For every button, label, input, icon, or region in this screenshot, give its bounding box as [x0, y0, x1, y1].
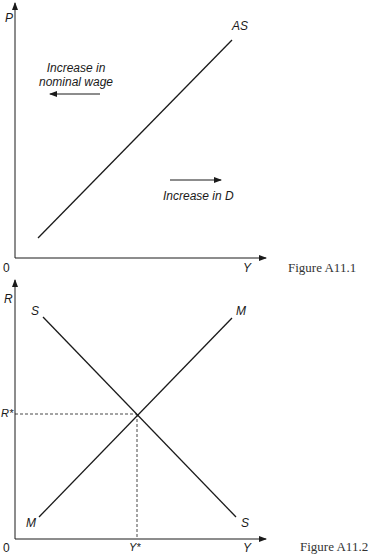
p-axis-label: P — [5, 11, 13, 25]
as-curve-label: AS — [232, 19, 248, 33]
m-curve — [39, 318, 232, 517]
figure2-y-axis-label: Y — [243, 541, 251, 555]
figure1-caption: Figure A11.1 — [288, 260, 356, 276]
increase-in-d-annotation: Increase in D — [163, 189, 234, 203]
annotation-line-1: Increase in — [36, 61, 116, 75]
figure2-axes — [15, 280, 266, 539]
r-axis-label: R — [4, 292, 13, 306]
annotation-line-2: nominal wage — [36, 75, 116, 89]
figure1-origin-label: 0 — [3, 261, 10, 275]
figure2-origin-label: 0 — [3, 541, 10, 555]
s-curve — [43, 317, 236, 517]
s-curve-bottom-label: S — [241, 516, 249, 530]
figure1-axes — [15, 3, 266, 258]
m-curve-top-label: M — [236, 304, 246, 318]
r-star-label: R* — [1, 407, 13, 419]
m-curve-bottom-label: M — [26, 516, 36, 530]
figure2-caption: Figure A11.2 — [300, 539, 368, 555]
y-star-label: Y* — [129, 541, 141, 553]
figure1-y-axis-label: Y — [243, 261, 251, 275]
nominal-wage-annotation: Increase in nominal wage — [36, 61, 116, 89]
s-curve-top-label: S — [31, 304, 39, 318]
